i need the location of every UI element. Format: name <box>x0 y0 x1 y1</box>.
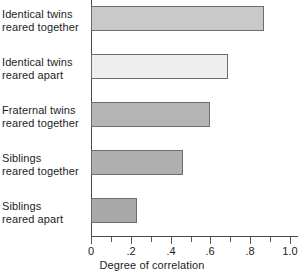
x-axis-tick-label: .2 <box>126 245 135 258</box>
category-label-fraternal-twins-reared-together: Fraternal twins reared together <box>2 104 84 130</box>
x-axis-tick-label: .6 <box>205 245 214 258</box>
category-label-line2: reared apart <box>2 69 84 82</box>
category-label-line2: reared apart <box>2 213 84 226</box>
x-axis-major-tick <box>171 237 172 244</box>
category-label-line1: Fraternal twins <box>2 104 76 116</box>
category-label-identical-twins-reared-apart: Identical twins reared apart <box>2 56 84 82</box>
x-axis-major-tick <box>290 237 291 244</box>
category-label-siblings-reared-apart: Siblings reared apart <box>2 200 84 226</box>
x-axis-minor-tick <box>270 237 271 242</box>
category-label-line1: Identical twins <box>2 8 73 20</box>
category-label-line1: Identical twins <box>2 56 73 68</box>
plot-area <box>91 0 304 236</box>
bar <box>91 198 137 223</box>
x-axis-tick-label: .8 <box>245 245 254 258</box>
bar <box>91 102 210 127</box>
x-axis-minor-tick <box>111 237 112 242</box>
category-label-line1: Siblings <box>2 200 41 212</box>
x-axis-major-tick <box>250 237 251 244</box>
x-axis-tick-label: 0 <box>88 245 94 258</box>
x-axis-tick-label: .4 <box>166 245 175 258</box>
x-axis-minor-tick <box>151 237 152 242</box>
bar <box>91 6 264 31</box>
x-axis-minor-tick <box>191 237 192 242</box>
category-label-line2: reared together <box>2 117 84 130</box>
x-axis-minor-tick <box>230 237 231 242</box>
category-label-identical-twins-reared-together: Identical twins reared together <box>2 8 84 34</box>
x-axis-title: Degree of correlation <box>0 259 304 272</box>
x-axis-ticks <box>91 237 304 245</box>
x-axis-tick-label: 1.0 <box>282 245 297 258</box>
category-label-line2: reared together <box>2 165 84 178</box>
category-axis-labels: Identical twins reared together Identica… <box>0 0 88 236</box>
x-axis-tick-labels: 0.2.4.6.81.0 <box>91 245 304 259</box>
bar <box>91 150 183 175</box>
bar <box>91 54 228 79</box>
x-axis-major-tick <box>210 237 211 244</box>
category-label-line1: Siblings <box>2 152 41 164</box>
x-axis-major-tick <box>131 237 132 244</box>
x-axis-major-tick <box>91 237 92 244</box>
category-label-siblings-reared-together: Siblings reared together <box>2 152 84 178</box>
correlation-bar-chart: Identical twins reared together Identica… <box>0 0 304 274</box>
category-label-line2: reared together <box>2 21 84 34</box>
